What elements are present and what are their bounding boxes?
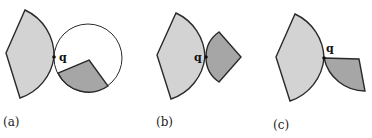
panel-a: q (a) <box>3 10 122 129</box>
point-label: q <box>59 51 67 64</box>
panel-label: (c) <box>273 118 289 132</box>
light-sector <box>6 10 54 98</box>
panel-label: (a) <box>3 115 20 129</box>
dark-sector <box>206 32 241 82</box>
panel-c: q (c) <box>273 14 365 132</box>
contact-point <box>322 56 326 60</box>
point-label: q <box>326 42 334 55</box>
panel-b: q (b) <box>156 13 241 129</box>
dark-sector <box>324 58 365 91</box>
light-sector <box>276 14 324 101</box>
point-label: q <box>194 51 202 64</box>
contact-point <box>52 55 56 59</box>
contact-point <box>204 55 208 59</box>
panel-label: (b) <box>156 115 173 129</box>
figure-canvas: q (a) q (b) q (c) <box>0 0 372 138</box>
